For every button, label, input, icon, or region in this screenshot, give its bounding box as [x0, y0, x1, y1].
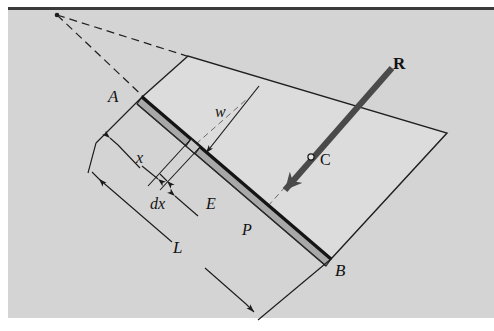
apex-point — [55, 13, 60, 18]
label-length-l: L — [173, 239, 182, 256]
label-point-c: C — [320, 152, 331, 168]
label-point-b: B — [335, 262, 345, 279]
label-load-intensity-w: w — [215, 104, 226, 120]
label-resultant-r: R — [393, 55, 405, 72]
beam-load-diagram — [0, 0, 494, 331]
label-point-p: P — [242, 222, 252, 238]
figure-root: A B C E P R x dx L w — [0, 0, 494, 331]
label-distance-x: x — [136, 150, 143, 166]
label-element-dx: dx — [150, 196, 165, 212]
label-point-e: E — [206, 196, 216, 212]
label-point-a: A — [108, 88, 118, 105]
centroid-marker — [308, 154, 314, 160]
